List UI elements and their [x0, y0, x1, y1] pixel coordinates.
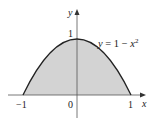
function-one: 1: [114, 38, 119, 49]
function-lhs: y: [97, 38, 103, 49]
origin-label: 0: [68, 99, 73, 110]
function-label: y = 1 − x2: [97, 37, 139, 49]
y-tick-1: 1: [68, 28, 73, 39]
function-exp: 2: [135, 37, 139, 45]
x-axis-arrow-icon: [140, 93, 146, 98]
function-eq: =: [105, 38, 111, 49]
parabola-diagram: y 1 y = 1 − x2 −1 0 1 x: [0, 0, 154, 126]
x-axis-label: x: [141, 98, 147, 109]
function-minus: −: [122, 38, 128, 49]
x-tick-neg-1: −1: [16, 99, 27, 110]
y-axis-label: y: [67, 7, 73, 18]
x-tick-1: 1: [128, 99, 133, 110]
y-axis-arrow-icon: [75, 9, 80, 15]
